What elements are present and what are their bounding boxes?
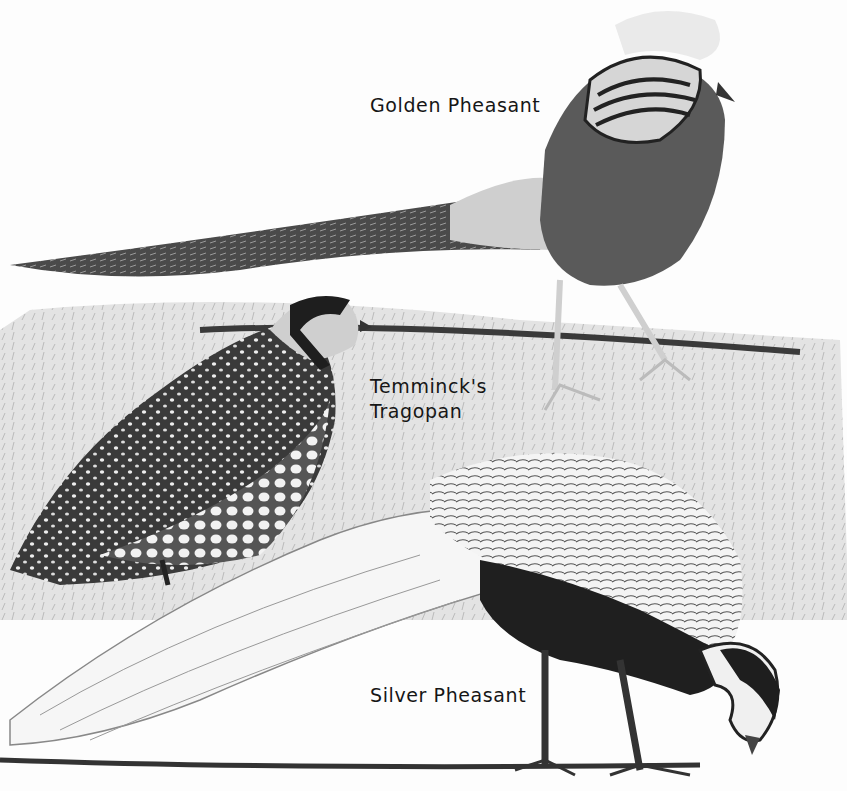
label-silver-pheasant: Silver Pheasant (370, 683, 526, 708)
label-tragopan-line1: Temminck's (370, 374, 487, 399)
label-golden-pheasant: Golden Pheasant (370, 93, 540, 118)
pheasant-illustration: Golden Pheasant Temminck's Tragopan Silv… (0, 0, 847, 791)
label-tragopan-line2: Tragopan (370, 399, 463, 424)
